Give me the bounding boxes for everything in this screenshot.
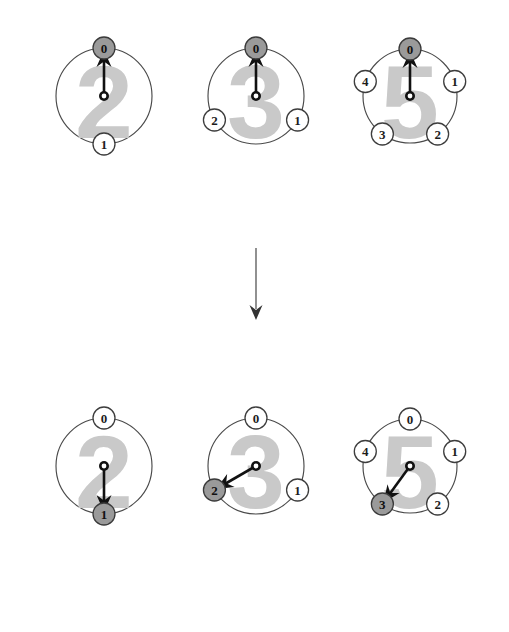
clock-mod-5-before[interactable]: 501234 (354, 38, 465, 160)
node-label: 0 (101, 411, 108, 426)
node-label: 2 (434, 497, 441, 512)
node-label: 0 (253, 411, 260, 426)
clock-node[interactable]: 1 (444, 70, 466, 92)
clock-node[interactable]: 1 (287, 109, 309, 131)
clock-node[interactable]: 4 (354, 440, 376, 462)
clock-node[interactable]: 1 (93, 503, 115, 525)
clock-hub-center (102, 94, 107, 99)
node-label: 3 (379, 497, 386, 512)
clock-node[interactable]: 4 (354, 70, 376, 92)
node-label: 1 (101, 137, 108, 152)
clocks-layer: 20130125012342013012501234 (56, 37, 466, 530)
clock-hub-center (408, 94, 413, 99)
clock-mod-2-after[interactable]: 201 (56, 407, 152, 530)
node-label: 1 (294, 483, 301, 498)
clock-node[interactable]: 0 (399, 408, 421, 430)
clock-node[interactable]: 1 (287, 479, 309, 501)
clock-hub-center (254, 94, 259, 99)
node-label: 0 (253, 41, 260, 56)
clock-node[interactable]: 2 (203, 109, 225, 131)
downward-flow-arrow (250, 248, 263, 320)
clock-node[interactable]: 3 (371, 123, 393, 145)
clock-hub-center (408, 464, 413, 469)
figure-container: 20130125012342013012501234 (0, 0, 509, 632)
node-label: 4 (362, 444, 369, 459)
clock-mod-5-after[interactable]: 501234 (354, 408, 465, 530)
clock-node[interactable]: 2 (427, 123, 449, 145)
clock-hub-center (102, 464, 107, 469)
node-label: 0 (407, 412, 414, 427)
flow-arrow-layer (250, 248, 263, 320)
clock-node[interactable]: 0 (93, 37, 115, 59)
clock-diagram-svg: 20130125012342013012501234 (0, 0, 509, 632)
before-row: 2013012501234 (56, 37, 466, 160)
node-label: 1 (101, 507, 108, 522)
node-label: 2 (434, 127, 441, 142)
node-label: 1 (451, 444, 458, 459)
clock-node[interactable]: 1 (444, 440, 466, 462)
clock-node[interactable]: 0 (245, 37, 267, 59)
node-label: 0 (101, 41, 108, 56)
clock-mod-2-before[interactable]: 201 (56, 37, 152, 160)
after-row: 2013012501234 (56, 407, 466, 530)
watermark-digit: 3 (227, 414, 285, 530)
clock-node[interactable]: 0 (399, 38, 421, 60)
clock-node[interactable]: 3 (371, 493, 393, 515)
clock-mod-3-before[interactable]: 3012 (203, 37, 308, 160)
clock-node[interactable]: 0 (93, 407, 115, 429)
node-label: 4 (362, 74, 369, 89)
node-label: 0 (407, 42, 414, 57)
node-label: 3 (379, 127, 386, 142)
clock-node[interactable]: 1 (93, 133, 115, 155)
node-label: 1 (294, 113, 301, 128)
node-label: 2 (211, 113, 218, 128)
clock-mod-3-after[interactable]: 3012 (203, 407, 308, 530)
clock-node[interactable]: 0 (245, 407, 267, 429)
node-label: 2 (211, 483, 218, 498)
clock-hub-center (254, 464, 259, 469)
node-label: 1 (451, 74, 458, 89)
clock-node[interactable]: 2 (203, 479, 225, 501)
clock-node[interactable]: 2 (427, 493, 449, 515)
